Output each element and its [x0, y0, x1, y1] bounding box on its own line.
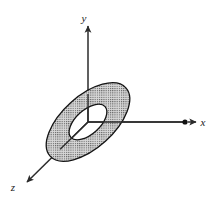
- y-axis-label: y: [81, 12, 87, 24]
- figure-canvas: x y z: [0, 0, 219, 204]
- x-axis-label: x: [200, 116, 206, 128]
- x-axis-point-marker: [182, 119, 187, 124]
- annulus-stipple-fill: [0, 0, 219, 204]
- annulus-shape: [0, 0, 219, 204]
- coordinate-system-diagram: x y z: [0, 0, 219, 204]
- z-axis-label: z: [10, 181, 16, 193]
